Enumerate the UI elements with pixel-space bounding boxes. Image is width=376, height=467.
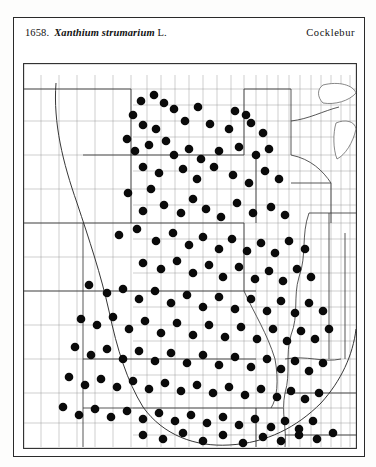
occurrence-dots xyxy=(59,91,338,448)
occurrence-dot xyxy=(275,175,284,184)
occurrence-dot xyxy=(155,409,164,418)
occurrence-dot xyxy=(239,439,248,448)
occurrence-dot xyxy=(189,331,198,340)
occurrence-dot xyxy=(179,165,188,174)
occurrence-dot xyxy=(185,145,194,154)
occurrence-dot xyxy=(167,349,176,358)
occurrence-dot xyxy=(257,385,266,394)
occurrence-dot xyxy=(171,417,180,426)
occurrence-dot xyxy=(215,361,224,370)
occurrence-dot xyxy=(263,307,272,316)
occurrence-dot xyxy=(265,267,274,276)
occurrence-dot xyxy=(267,203,276,212)
common-name: Cocklebur xyxy=(306,27,355,38)
occurrence-dot xyxy=(295,431,304,440)
occurrence-dot xyxy=(215,245,224,254)
occurrence-dot xyxy=(75,411,84,420)
occurrence-dot xyxy=(225,383,234,392)
occurrence-dot xyxy=(189,269,198,278)
occurrence-dot xyxy=(157,265,166,274)
occurrence-dot xyxy=(307,273,316,282)
occurrence-dot xyxy=(301,395,310,404)
occurrence-dot xyxy=(59,403,68,412)
occurrence-dot xyxy=(251,415,260,424)
occurrence-dot xyxy=(77,315,86,324)
occurrence-dot xyxy=(151,357,160,366)
occurrence-dot xyxy=(131,147,140,156)
occurrence-dot xyxy=(109,313,118,322)
occurrence-dot xyxy=(139,415,148,424)
occurrence-dot xyxy=(103,345,112,354)
occurrence-dot xyxy=(71,343,80,352)
occurrence-dot xyxy=(135,295,144,304)
occurrence-dot xyxy=(129,111,138,120)
occurrence-dot xyxy=(194,103,203,112)
occurrence-dot xyxy=(259,129,268,138)
occurrence-dot xyxy=(93,321,102,330)
occurrence-dot xyxy=(203,419,212,428)
occurrence-dot xyxy=(133,225,142,234)
occurrence-dot xyxy=(177,387,186,396)
occurrence-dot xyxy=(305,299,314,308)
occurrence-dot xyxy=(277,437,286,446)
occurrence-dot xyxy=(160,99,169,108)
occurrence-dot xyxy=(205,321,214,330)
occurrence-dot xyxy=(265,145,274,154)
occurrence-dot xyxy=(137,97,146,106)
occurrence-dot xyxy=(309,417,318,426)
state-boundaries xyxy=(24,89,356,447)
occurrence-dot xyxy=(301,245,310,254)
occurrence-dot xyxy=(231,107,240,116)
distribution-map xyxy=(23,63,357,449)
occurrence-dot xyxy=(65,373,74,382)
occurrence-dot xyxy=(160,201,169,210)
occurrence-dot xyxy=(202,205,211,214)
scientific-name: Xanthium strumarium xyxy=(54,27,155,38)
occurrence-dot xyxy=(123,135,132,144)
occurrence-dot xyxy=(197,155,206,164)
occurrence-dot xyxy=(235,263,244,272)
occurrence-dot xyxy=(125,325,134,334)
occurrence-dot xyxy=(183,291,192,300)
occurrence-dot xyxy=(283,337,292,346)
occurrence-dot xyxy=(287,387,296,396)
occurrence-dot xyxy=(173,319,182,328)
occurrence-dot xyxy=(273,393,282,402)
occurrence-dot xyxy=(252,151,261,160)
occurrence-dot xyxy=(103,289,112,298)
occurrence-dot xyxy=(157,329,166,338)
occurrence-dot xyxy=(123,407,132,416)
occurrence-dot xyxy=(206,120,215,129)
occurrence-dot xyxy=(279,277,288,286)
occurrence-dot xyxy=(215,293,224,302)
occurrence-dot xyxy=(259,433,268,442)
occurrence-dot xyxy=(139,431,148,440)
occurrence-dot xyxy=(249,209,258,218)
occurrence-dot xyxy=(124,189,133,198)
occurrence-dot xyxy=(235,143,244,152)
occurrence-dot xyxy=(199,437,208,446)
occurrence-dot xyxy=(263,355,272,364)
atlas-page: 1658.Xanthium strumarium L. Cocklebur xyxy=(0,0,376,467)
occurrence-dot xyxy=(210,163,219,172)
occurrence-dot xyxy=(181,117,190,126)
occurrence-dot xyxy=(199,303,208,312)
map-plate: 1658.Xanthium strumarium L. Cocklebur xyxy=(13,17,365,457)
occurrence-dot xyxy=(87,351,96,360)
occurrence-dot xyxy=(85,281,94,290)
occurrence-dot xyxy=(209,389,218,398)
occurrence-dot xyxy=(152,125,161,134)
occurrence-dot xyxy=(277,297,286,306)
occurrence-dot xyxy=(251,275,260,284)
occurrence-dot xyxy=(293,265,302,274)
occurrence-dot xyxy=(170,151,179,160)
occurrence-dot xyxy=(119,285,128,294)
occurrence-dot xyxy=(107,413,116,422)
occurrence-dot xyxy=(229,171,238,180)
occurrence-dot xyxy=(151,287,160,296)
occurrence-dot xyxy=(141,317,150,326)
occurrence-dot xyxy=(161,379,170,388)
occurrence-dot xyxy=(247,119,256,128)
occurrence-dot xyxy=(311,335,320,344)
occurrence-dot xyxy=(91,405,100,414)
